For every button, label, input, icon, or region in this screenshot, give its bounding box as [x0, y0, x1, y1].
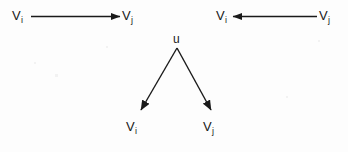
node-label-subscript: i — [225, 15, 227, 25]
node-label-base: V — [216, 8, 225, 23]
node-label-bottom-left-child: Vi — [126, 120, 137, 136]
figure-canvas: V_j --> Vi Vj Vi Vj u Vi Vj — [0, 0, 348, 152]
node-label-subscript: j — [212, 126, 214, 136]
node-label-top-left-source: Vi — [12, 9, 23, 25]
node-label-top-right-target: Vi — [216, 9, 227, 25]
node-label-subscript: j — [328, 15, 330, 25]
node-label-top-right-source: Vj — [319, 9, 330, 25]
node-label-bottom-right-child: Vj — [203, 120, 214, 136]
node-label-base: V — [126, 119, 135, 134]
node-label-base: V — [319, 8, 328, 23]
arrow-branch-right-line — [177, 48, 211, 110]
diagram-vector-layer: V_j --> — [0, 0, 348, 152]
arrow-branch-left-line — [141, 48, 177, 110]
node-label-subscript: i — [21, 15, 23, 25]
node-label-top-left-target: Vj — [122, 9, 133, 25]
node-label-base: V — [12, 8, 21, 23]
node-label-parent-u: u — [173, 33, 180, 45]
node-label-subscript: i — [135, 126, 137, 136]
node-label-base: V — [122, 8, 131, 23]
node-label-subscript: j — [131, 15, 133, 25]
node-label-base: V — [203, 119, 212, 134]
node-label-base: u — [173, 32, 180, 46]
diagram-common-parent-u — [141, 48, 211, 110]
